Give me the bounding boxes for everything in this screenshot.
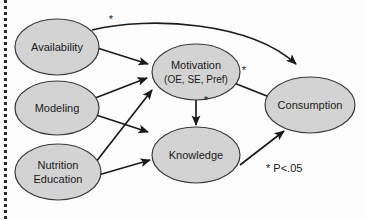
edge-nutrition-education-to-motivation — [92, 90, 152, 167]
node-layer: Availability Modeling Nutrition Educatio… — [15, 19, 355, 200]
figure-canvas: Availability Modeling Nutrition Educatio… — [0, 0, 366, 220]
edge-modeling-to-knowledge — [90, 113, 148, 132]
node-availability-label: Availability — [31, 41, 83, 53]
node-consumption[interactable]: Consumption — [265, 77, 355, 133]
node-knowledge-label: Knowledge — [169, 149, 223, 161]
node-motivation-shape — [152, 44, 240, 100]
edge-knowledge-to-consumption — [240, 131, 284, 165]
node-motivation[interactable]: Motivation (OE, SE, Pref) — [152, 44, 240, 100]
edge-nutrition-education-to-knowledge — [95, 160, 150, 176]
node-modeling[interactable]: Modeling — [15, 81, 99, 135]
node-nutrition-education-label-line1: Nutrition — [38, 159, 79, 171]
path-diagram: Availability Modeling Nutrition Educatio… — [0, 0, 366, 220]
legend-significance-note: * P<.05 — [266, 162, 302, 174]
node-nutrition-education-label-line2: Education — [34, 173, 83, 185]
edge-modeling-to-motivation — [90, 78, 147, 100]
node-availability[interactable]: Availability — [15, 19, 99, 75]
node-motivation-label-line2: (OE, SE, Pref) — [164, 74, 228, 85]
node-modeling-label: Modeling — [35, 102, 80, 114]
node-motivation-label-line1: Motivation — [171, 59, 221, 71]
edge-availability-to-motivation — [91, 46, 148, 64]
star-motivation-consumption: * — [242, 64, 247, 76]
star-motivation-knowledge: * — [204, 94, 209, 106]
node-knowledge[interactable]: Knowledge — [152, 127, 240, 183]
node-nutrition-education[interactable]: Nutrition Education — [15, 144, 101, 200]
star-availability-consumption: * — [109, 13, 114, 25]
node-consumption-label: Consumption — [278, 99, 343, 111]
